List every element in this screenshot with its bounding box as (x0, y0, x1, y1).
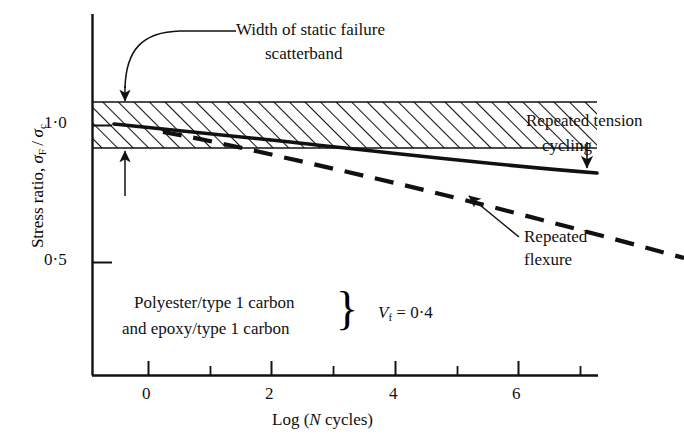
x-tick-label-4: 4 (389, 384, 398, 404)
x-tick-label-2: 2 (265, 384, 274, 404)
x-tick-label-0: 0 (142, 384, 151, 404)
fibre-volume-fraction-note: Vf = 0·4 (378, 303, 433, 327)
scatterband-callout-line2: scatterband (265, 44, 342, 64)
vf-value: = 0·4 (392, 303, 433, 322)
series-repeated-flexure (163, 132, 684, 258)
material-note-line1: Polyester/type 1 carbon (134, 293, 295, 313)
flexure-callout-line2: flexure (524, 250, 572, 270)
material-note-brace: } (336, 286, 358, 332)
x-axis-ticks (149, 361, 581, 375)
x-axis-label-pre: Log ( (272, 410, 309, 429)
material-note-line2: and epoxy/type 1 carbon (122, 319, 290, 339)
x-axis-label: Log (N cycles) (272, 410, 373, 430)
scatterband-callout-line1: Width of static failure (236, 20, 385, 40)
tension-callout-line1: Repeated tension (526, 111, 643, 131)
sigma-f-symbol: σ (28, 155, 47, 163)
x-tick-label-6: 6 (512, 384, 521, 404)
y-tick-label-0-5: 0·5 (44, 250, 67, 270)
y-axis-slash: / (28, 138, 47, 150)
x-axis-label-post: cycles) (321, 410, 373, 429)
static-failure-scatterband (92, 102, 597, 148)
y-tick-label-1-0: 1·0 (44, 113, 67, 133)
figure-canvas: Stress ratio, σF / σc 1·0 0·5 0 2 4 6 Lo… (0, 0, 684, 441)
chart-svg (0, 0, 684, 441)
vf-symbol: V (378, 303, 388, 322)
sigma-f-subscript: F (36, 149, 48, 155)
x-axis-label-n: N (309, 410, 320, 429)
scatterband-callout-leader (125, 31, 236, 101)
flexure-callout-line1: Repeated (524, 227, 587, 247)
flexure-curve-arrow (469, 196, 519, 237)
tension-callout-line2: cycling (542, 136, 592, 156)
y-axis-label-pre: Stress ratio, (28, 164, 47, 249)
